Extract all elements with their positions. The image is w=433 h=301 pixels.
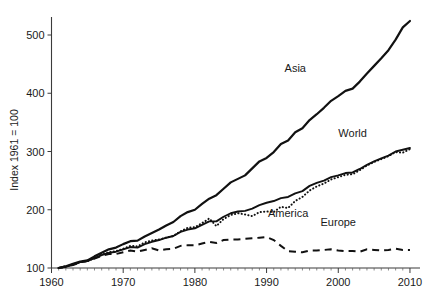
x-tick-label: 1990 (254, 276, 278, 288)
series-line-asia (59, 21, 410, 268)
y-tick-label: 400 (26, 87, 44, 99)
x-tick-label: 1970 (111, 276, 135, 288)
y-tick-label: 300 (26, 146, 44, 158)
series-label-asia: Asia (285, 62, 307, 74)
line-chart: AsiaWorldAmericaEurope 10020030040050019… (0, 0, 433, 301)
series-line-america (59, 149, 410, 268)
x-tick-label: 2010 (398, 276, 422, 288)
y-tick-label: 100 (26, 262, 44, 274)
y-axis-title: Index 1961 = 100 (8, 109, 20, 191)
y-tick-label: 200 (26, 204, 44, 216)
data-series-layer (59, 21, 410, 268)
axes (48, 17, 421, 273)
series-labels-layer: AsiaWorldAmericaEurope (268, 62, 367, 228)
x-tick-label: 1980 (183, 276, 207, 288)
y-tick-label: 500 (26, 29, 44, 41)
x-tick-label: 2000 (326, 276, 350, 288)
series-label-europe: Europe (321, 216, 356, 228)
x-tick-label: 1960 (39, 276, 63, 288)
tick-labels-layer: 100200300400500196019701980199020002010 (26, 29, 422, 288)
chart-container: AsiaWorldAmericaEurope 10020030040050019… (0, 0, 433, 301)
series-label-world: World (338, 127, 367, 139)
series-label-america: America (268, 207, 309, 219)
series-line-world (59, 148, 410, 268)
